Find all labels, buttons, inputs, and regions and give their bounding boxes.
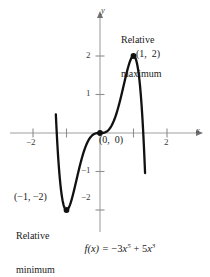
equation-lhs: f(x) = [85,243,112,254]
y-tick-label-1: 1 [86,88,91,98]
x-axis-label: x [196,126,200,136]
minimum-coordinate-label: (−1, −2) [14,191,47,202]
relative-maximum-line1: Relative [121,34,205,45]
y-tick-label-neg1: −1 [81,165,91,175]
origin-coordinate-label: (0, 0) [99,134,123,145]
x-tick-label-2: 2 [164,137,169,147]
function-equation-caption: f(x) = −3x5 + 5x3 [74,231,155,266]
y-tick-label-neg2: −2 [81,192,91,202]
relative-maximum-annotation: Relative maximum [121,12,205,102]
relative-maximum-line2: maximum [121,68,205,79]
y-tick-label-2: 2 [86,50,91,60]
equation-term2-exponent: 3 [152,241,156,249]
equation-term2-sign: + [131,243,142,254]
y-axis-label: y [101,6,105,16]
x-tick-label-neg2: −2 [26,137,36,147]
